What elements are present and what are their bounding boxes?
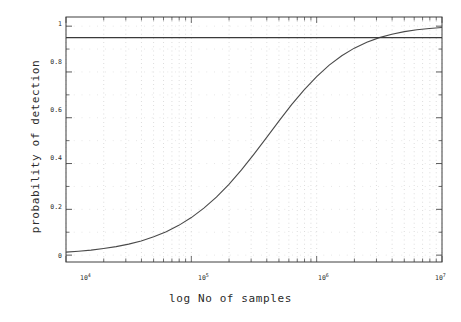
x-axis-title: log No of samples [0,292,461,305]
x-tick-label: 104 [80,272,91,282]
data-curve [66,28,442,253]
y-axis-title: probability of detection [29,27,42,267]
x-tick-label: 107 [435,272,446,282]
chart-figure: 1 0.8 0.6 0.4 0.2 0 104 105 106 107 log … [0,0,461,322]
x-tick-label: 106 [318,272,329,282]
x-tick-exponent: 4 [88,272,91,278]
x-tick-exponent: 6 [326,272,329,278]
x-tick-exponent: 5 [206,272,209,278]
axis-ticks [66,17,442,262]
x-tick-label: 105 [198,272,209,282]
gridlines [66,17,442,262]
x-tick-mantissa: 10 [435,274,443,282]
x-tick-mantissa: 10 [198,274,206,282]
x-tick-mantissa: 10 [80,274,88,282]
x-tick-mantissa: 10 [318,274,326,282]
x-tick-exponent: 7 [443,272,446,278]
plot-frame [66,17,442,262]
plot-area [0,0,461,322]
